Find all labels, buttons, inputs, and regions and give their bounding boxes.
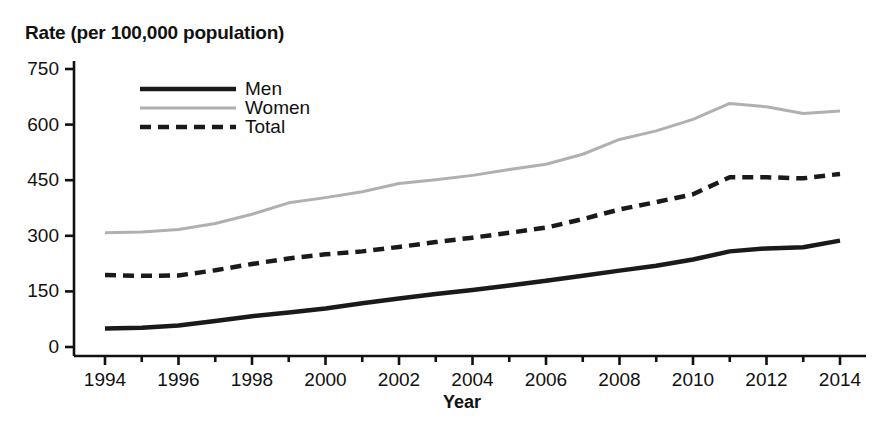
y-tick-label: 450 (1, 170, 59, 189)
legend-label-men: Men (245, 79, 282, 98)
legend-swatches (140, 89, 236, 127)
x-tick-label: 2000 (291, 370, 361, 389)
y-tick-label: 750 (1, 59, 59, 78)
x-tick-label: 2008 (585, 370, 655, 389)
y-tick-label: 0 (1, 337, 59, 356)
legend-label-total: Total (245, 117, 285, 136)
x-axis-title-wrap: Year (0, 392, 888, 413)
x-tick-label: 2010 (658, 370, 728, 389)
x-tick-label: 1994 (70, 370, 140, 389)
x-tick-label: 2012 (732, 370, 802, 389)
data-series-layer (105, 103, 840, 328)
chart-figure: Rate (per 100,000 population) 0150300450… (0, 0, 888, 446)
x-tick-label: 1998 (217, 370, 287, 389)
x-tick-label: 2004 (438, 370, 508, 389)
x-tick-label: 2002 (364, 370, 434, 389)
y-tick-label: 150 (1, 281, 59, 300)
legend-label-women: Women (245, 98, 310, 117)
y-tick-label: 600 (1, 115, 59, 134)
y-tick-label: 300 (1, 226, 59, 245)
series-line-women (105, 103, 840, 232)
x-tick-label: 1996 (144, 370, 214, 389)
x-tick-label: 2014 (805, 370, 875, 389)
x-axis-title: Year (443, 392, 481, 412)
series-line-men (105, 241, 840, 329)
x-tick-label: 2006 (511, 370, 581, 389)
